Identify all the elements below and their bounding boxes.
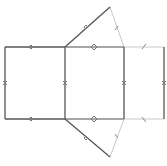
net-diagram — [0, 0, 167, 166]
diagonal-diamond-tick-icon — [84, 25, 88, 140]
cross-tick-icon — [3, 81, 166, 85]
triple-diamond-tick-icon — [91, 44, 97, 122]
tick-marks — [3, 25, 166, 140]
slash-tick-icon — [115, 26, 146, 138]
faint-edges — [110, 7, 164, 157]
diamond-tick-icon — [29, 45, 33, 121]
solid-edges — [5, 7, 164, 157]
